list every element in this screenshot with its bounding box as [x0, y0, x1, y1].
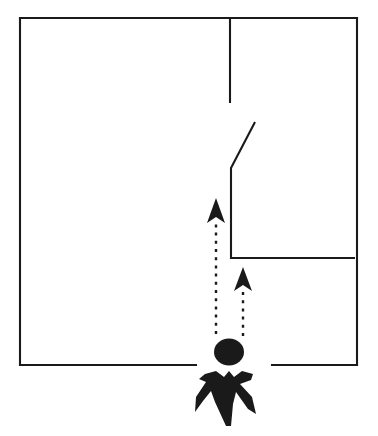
observer-head-icon [214, 339, 244, 366]
left-sight-line [207, 198, 225, 334]
observer-body-icon [195, 371, 256, 426]
right-sight-line-arrowhead [234, 267, 252, 291]
room-outline [20, 18, 357, 365]
angled-partition-wall [231, 122, 355, 258]
diagram-canvas [0, 0, 378, 436]
left-sight-line-arrowhead [207, 198, 225, 223]
interior-partitions [230, 18, 355, 258]
floor-plan-diagram [0, 0, 378, 436]
observer-figure [195, 339, 256, 427]
right-sight-line [234, 267, 252, 336]
